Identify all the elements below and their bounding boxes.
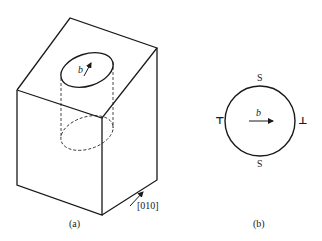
burgers-vector-label-a: b	[78, 64, 83, 75]
burgers-vector-arrow-a	[84, 63, 91, 76]
caption-b: (b)	[253, 218, 265, 229]
loop-bottom-ellipse	[56, 109, 117, 156]
direction-label: [010]	[137, 200, 159, 211]
diagram-canvas	[0, 0, 322, 241]
burgers-vector-label-b: b	[256, 107, 261, 118]
bottom-label-s: S	[257, 158, 263, 169]
caption-a: (a)	[69, 218, 80, 229]
top-label-s: S	[257, 72, 263, 83]
right-edge-dislocation-symbol: ⊥	[298, 115, 308, 126]
left-edge-dislocation-symbol: ⊤	[215, 115, 225, 126]
